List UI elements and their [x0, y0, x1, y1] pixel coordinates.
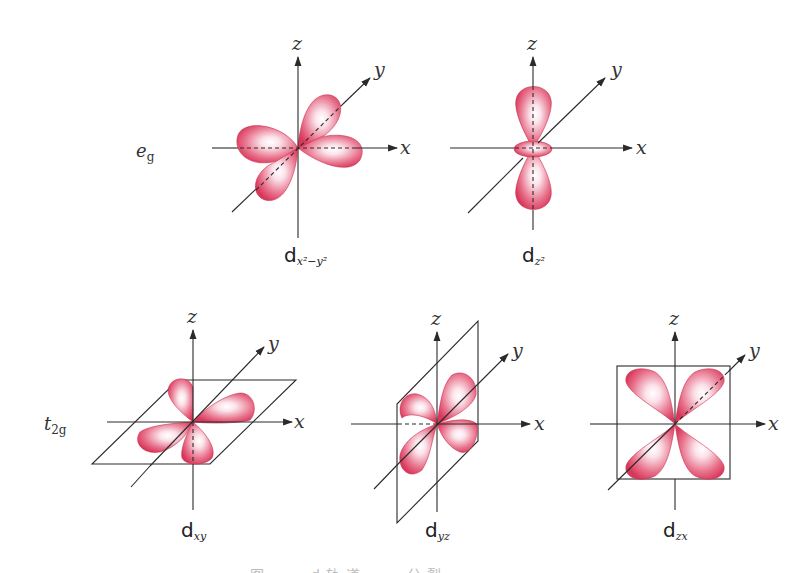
orbital-label-dyz: dyz — [425, 518, 450, 543]
axis-label-z: z — [291, 32, 303, 54]
orbital-dxy: z y x dxy — [92, 305, 305, 543]
group-label-eg: eg — [136, 140, 155, 164]
axis-label-y: y — [511, 339, 523, 361]
orbital-label-dx2-y2: dx²−y² — [284, 243, 327, 268]
orbital-dyz: z y x dyz — [351, 307, 545, 543]
orbital-label-dxy: dxy — [181, 518, 207, 543]
figure-caption-cropped: 图 … d轨道 … 分裂 … — [250, 566, 580, 573]
axis-label-x: x — [768, 412, 779, 434]
d-orbital-diagram: eg t2g z y x dx²−y² z y x — [0, 0, 797, 573]
orbital-dz2: z y x dz² — [450, 32, 647, 268]
axis-label-y: y — [267, 332, 279, 354]
axis-label-x: x — [400, 136, 411, 158]
axis-label-y: y — [610, 58, 622, 80]
axis-label-x: x — [636, 136, 647, 158]
axis-label-z: z — [430, 307, 442, 329]
axis-label-z: z — [526, 32, 538, 54]
orbital-dzx: z y x dzx — [590, 307, 779, 543]
axis-label-x: x — [294, 410, 305, 432]
axis-label-y: y — [373, 58, 385, 80]
axis-label-x: x — [534, 412, 545, 434]
axis-label-z: z — [186, 305, 198, 327]
orbital-label-dz2: dz² — [522, 243, 545, 268]
orbital-label-dzx: dzx — [663, 518, 688, 543]
axis-label-z: z — [668, 307, 680, 329]
orbital-dx2-y2: z y x dx²−y² — [212, 32, 411, 268]
group-label-t2g: t2g — [44, 413, 67, 437]
axis-label-y: y — [748, 339, 760, 361]
